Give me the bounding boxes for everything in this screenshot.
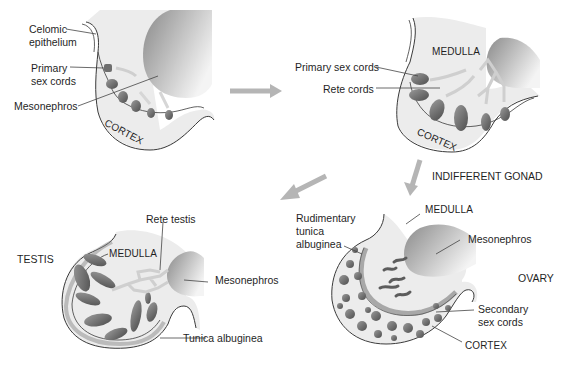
stage1-mesonephros [143,10,212,98]
title-ovary: OVARY [518,272,554,284]
label-medulla-stage2: MEDULLA [432,46,480,58]
label-primary-sex-cords-line2: sex cords [31,75,76,87]
label-cortex-ovary: CORTEX [465,340,507,352]
label-rete-cords: Rete cords [323,83,374,95]
arrow-stage2-to-testis [280,176,326,200]
stage2-gonad [376,17,540,152]
label-medulla-testis: MEDULLA [109,248,157,260]
arrow-stage2-to-ovary [404,160,420,196]
label-primary-sex-cords-line1: Primary [31,62,67,74]
label-secondary-sex-cords-line1: Secondary [478,303,528,315]
label-rudimentary-tunica-line2: tunica [296,225,324,237]
title-testis: TESTIS [17,253,54,265]
label-rudimentary-tunica-line1: Rudimentary [296,212,356,224]
ovary-gonad [332,214,477,344]
label-rudimentary-tunica-line3: albuginea [296,238,342,250]
label-primary-sex-cords-stage2: Primary sex cords [295,61,379,73]
label-celomic-epithelium-line1: Celomic [29,23,67,35]
label-medulla-ovary: MEDULLA [425,204,473,216]
label-mesonephros-testis: Mesonephros [215,274,279,286]
stage1-gonad [66,10,214,150]
label-celomic-epithelium-line2: epithelium [29,36,77,48]
label-secondary-sex-cords-line2: sex cords [478,316,523,328]
arrow-stage1-to-stage2 [230,84,282,98]
label-mesonephros-stage1: Mesonephros [14,100,78,112]
label-tunica-albuginea: Tunica albuginea [183,332,263,344]
label-mesonephros-ovary: Mesonephros [468,233,532,245]
stage2-mesonephros [487,38,541,88]
label-rete-testis: Rete testis [146,213,196,225]
caption-indifferent-gonad: INDIFFERENT GONAD [432,170,543,182]
testis-gonad [62,222,208,348]
ovary-mesonephros [404,224,476,276]
